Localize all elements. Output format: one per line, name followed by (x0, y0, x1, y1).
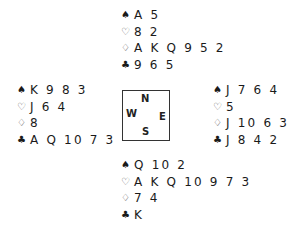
north-diamonds: ♢A K Q 9 5 2 (121, 40, 226, 57)
spade-icon: ♠ (121, 7, 134, 24)
south-hearts: ♡A K Q 10 9 7 3 (121, 174, 251, 191)
north-spades: ♠A 5 (121, 7, 226, 24)
compass-box: N W E S (122, 90, 170, 141)
spade-icon: ♠ (17, 82, 30, 99)
club-icon: ♣ (17, 132, 30, 149)
south-spades: ♠Q 10 2 (121, 157, 251, 174)
club-icon: ♣ (121, 207, 134, 224)
east-diamonds: ♢J 10 6 3 (213, 115, 287, 132)
east-hearts: ♡5 (213, 99, 287, 116)
north-hand: ♠A 5 ♡8 2 ♢A K Q 9 5 2 ♣9 6 5 (121, 7, 226, 73)
diamond-icon: ♢ (121, 40, 134, 57)
compass-west-label: W (126, 108, 137, 119)
west-hand: ♠K 9 8 3 ♡J 6 4 ♢8 ♣A Q 10 7 3 (17, 82, 115, 148)
south-hand: ♠Q 10 2 ♡A K Q 10 9 7 3 ♢7 4 ♣K (121, 157, 251, 223)
west-diamonds: ♢8 (17, 115, 115, 132)
heart-icon: ♡ (213, 99, 226, 116)
east-hand: ♠J 7 6 4 ♡5 ♢J 10 6 3 ♣J 8 4 2 (213, 82, 287, 148)
south-diamonds: ♢7 4 (121, 190, 251, 207)
compass-south-label: S (142, 126, 149, 137)
diamond-icon: ♢ (17, 115, 30, 132)
compass-north-label: N (141, 93, 149, 104)
heart-icon: ♡ (17, 99, 30, 116)
west-hearts: ♡J 6 4 (17, 99, 115, 116)
diamond-icon: ♢ (121, 190, 134, 207)
west-spades: ♠K 9 8 3 (17, 82, 115, 99)
north-clubs: ♣9 6 5 (121, 57, 226, 74)
spade-icon: ♠ (213, 82, 226, 99)
heart-icon: ♡ (121, 24, 134, 41)
west-clubs: ♣A Q 10 7 3 (17, 132, 115, 149)
south-clubs: ♣K (121, 207, 251, 224)
east-spades: ♠J 7 6 4 (213, 82, 287, 99)
club-icon: ♣ (121, 57, 134, 74)
east-clubs: ♣J 8 4 2 (213, 132, 287, 149)
spade-icon: ♠ (121, 157, 134, 174)
diamond-icon: ♢ (213, 115, 226, 132)
north-hearts: ♡8 2 (121, 24, 226, 41)
club-icon: ♣ (213, 132, 226, 149)
compass-east-label: E (159, 111, 166, 122)
heart-icon: ♡ (121, 174, 134, 191)
